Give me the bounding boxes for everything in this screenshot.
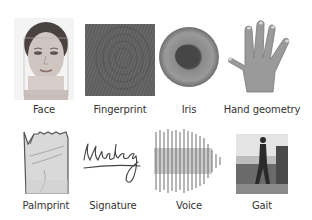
face-icon	[14, 18, 74, 100]
label-signature: Signature	[74, 200, 152, 211]
label-iris: Iris	[150, 104, 228, 115]
face-image	[14, 18, 74, 100]
label-hand-geometry: Hand geometry	[223, 104, 301, 115]
gait-image	[236, 134, 288, 194]
palmprint-icon	[22, 130, 72, 194]
palmprint-image	[22, 130, 72, 194]
gait-photo-icon	[236, 134, 288, 194]
label-voice: Voice	[150, 200, 228, 211]
signature-image	[80, 140, 144, 190]
label-gait: Gait	[223, 200, 301, 211]
iris-icon	[158, 26, 220, 88]
iris-image	[158, 26, 220, 88]
voice-waveform-image	[154, 126, 226, 196]
label-face: Face	[5, 104, 83, 115]
hand-icon	[225, 20, 297, 94]
voice-waveform-icon	[154, 126, 226, 196]
hand-geometry-image	[225, 20, 297, 94]
label-fingerprint: Fingerprint	[81, 104, 159, 115]
signature-icon	[80, 140, 144, 190]
fingerprint-icon	[85, 24, 155, 96]
fingerprint-image	[85, 24, 155, 96]
